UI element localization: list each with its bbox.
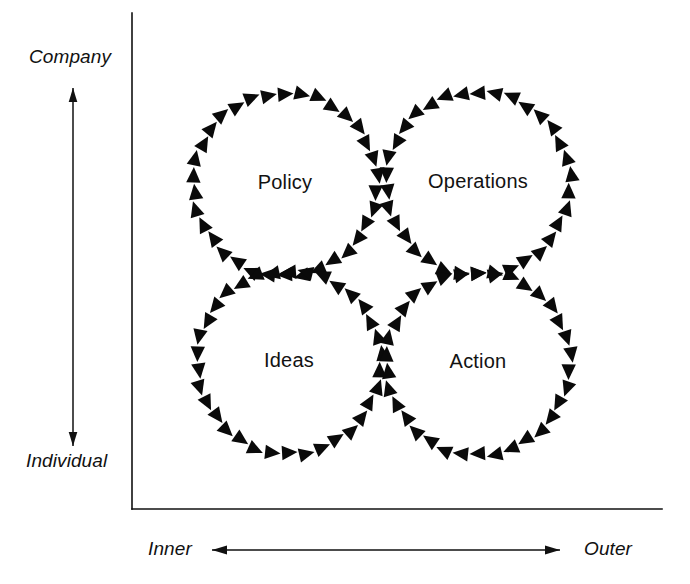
ring-arrow-triangle-icon [353, 229, 368, 246]
ring-arrow-triangle-icon [216, 247, 232, 263]
axis-label-inner: Inner [148, 538, 192, 560]
ring-arrow-triangle-icon [541, 231, 556, 248]
ring-arrow-triangle-icon [345, 288, 361, 304]
diagram-canvas: Company Individual Inner Outer PolicyOpe… [0, 0, 690, 584]
ring-arrow-triangle-icon [277, 88, 293, 102]
ring-arrow-triangle-icon [368, 185, 382, 201]
ring-arrow-triangle-icon [384, 380, 398, 397]
ring-arrow-triangle-icon [487, 446, 504, 460]
ring-arrow-triangle-icon [217, 420, 233, 436]
ring-arrow-triangle-icon [327, 434, 344, 448]
ring-arrow-triangle-icon [234, 275, 251, 289]
ring-arrow-triangle-icon [563, 379, 577, 396]
ring-arrow-triangle-icon [309, 88, 326, 101]
ring-arrow-triangle-icon [210, 296, 225, 313]
ring-arrow-triangle-icon [436, 447, 453, 460]
ring-arrow-triangle-icon [549, 216, 563, 233]
ring-arrow-triangle-icon [325, 251, 342, 265]
circle-label-operations: Operations [428, 170, 528, 193]
ring-arrow-triangle-icon [531, 246, 547, 262]
ring-arrow-triangle-icon [361, 214, 375, 231]
ring-arrow-triangle-icon [231, 429, 248, 444]
ring-arrow-triangle-icon [341, 243, 357, 259]
ring-arrow-triangle-icon [198, 393, 211, 410]
ring-arrow-triangle-icon [282, 446, 298, 460]
circle-label-action: Action [450, 350, 507, 373]
ring-arrow-triangle-icon [423, 96, 440, 110]
ring-arrow-triangle-icon [352, 410, 367, 427]
axis-label-outer: Outer [584, 538, 632, 560]
ring-arrow-triangle-icon [394, 301, 409, 318]
ring-arrow-triangle-icon [342, 425, 358, 441]
ring-arrow-triangle-icon [360, 395, 374, 412]
ring-arrow-triangle-icon [260, 90, 277, 104]
ring-arrow-triangle-icon [435, 273, 452, 286]
ring-arrow-triangle-icon [382, 149, 396, 166]
ring-arrow-triangle-icon [558, 329, 572, 346]
ring-arrow-triangle-icon [554, 393, 568, 410]
ring-arrow-triangle-icon [208, 231, 223, 248]
ring-arrow-triangle-icon [366, 314, 380, 331]
ring-arrow-triangle-icon [380, 200, 394, 217]
ring-arrow-triangle-icon [365, 150, 379, 167]
ring-arrow-triangle-icon [561, 364, 575, 380]
ring-arrow-triangle-icon [563, 346, 577, 362]
ring-arrow-triangle-icon [547, 120, 562, 137]
ring-arrow-triangle-icon [242, 94, 259, 107]
ring-arrow-triangle-icon [408, 104, 424, 120]
ring-arrow-triangle-icon [387, 315, 401, 332]
ring-arrow-triangle-icon [382, 363, 396, 379]
ring-arrow-triangle-icon [393, 133, 407, 150]
axis-label-company: Company [29, 46, 111, 68]
ring-arrow-triangle-icon [337, 106, 353, 122]
ring-arrow-triangle-icon [549, 313, 563, 330]
ring-arrow-triangle-icon [193, 328, 207, 345]
ring-arrow-triangle-icon [329, 281, 346, 296]
ring-arrow-triangle-icon [392, 396, 405, 413]
circle-label-policy: Policy [258, 171, 313, 194]
ring-arrow-triangle-icon [191, 201, 205, 218]
ring-arrow-triangle-icon [315, 271, 332, 284]
ring-arrow-triangle-icon [313, 444, 330, 457]
ring-arrow-triangle-icon [387, 214, 400, 231]
ring-arrow-triangle-icon [405, 288, 421, 304]
ring-arrow-triangle-icon [189, 184, 203, 200]
ring-arrow-triangle-icon [487, 88, 504, 102]
ring-arrow-triangle-icon [409, 426, 425, 442]
ring-arrow-triangle-icon [516, 255, 533, 269]
ring-arrow-triangle-icon [227, 102, 244, 116]
circle-label-ideas: Ideas [264, 349, 314, 372]
ring-arrow-triangle-icon [453, 447, 469, 461]
ring-arrow-triangle-icon [470, 267, 486, 281]
ring-arrow-triangle-icon [370, 200, 384, 217]
ring-arrow-triangle-icon [558, 200, 572, 217]
ring-arrow-triangle-icon [264, 445, 280, 459]
ring-arrow-triangle-icon [469, 446, 485, 460]
ring-arrow-triangle-icon [298, 448, 315, 462]
ring-arrow-triangle-icon [453, 86, 470, 100]
ring-arrow-triangle-icon [356, 134, 370, 151]
ring-arrow-triangle-icon [437, 87, 454, 100]
ring-arrow-triangle-icon [401, 410, 416, 427]
ring-arrow-triangle-icon [504, 92, 521, 105]
ring-arrow-triangle-icon [470, 86, 486, 100]
ring-arrow-triangle-icon [204, 312, 218, 329]
ring-arrow-triangle-icon [565, 166, 579, 182]
ring-arrow-triangle-icon [201, 122, 216, 139]
ring-arrow-triangle-icon [453, 269, 470, 283]
ring-arrow-triangle-icon [534, 109, 550, 125]
ring-arrow-triangle-icon [399, 117, 414, 134]
ring-arrow-triangle-icon [420, 281, 437, 295]
ring-arrow-triangle-icon [486, 264, 503, 278]
ring-arrow-triangle-icon [435, 261, 452, 274]
ring-arrow-triangle-icon [246, 440, 263, 453]
ring-arrow-triangle-icon [358, 299, 373, 316]
ring-arrow-triangle-icon [406, 241, 422, 257]
ring-arrow-triangle-icon [199, 217, 212, 234]
arrow-rings-layer [0, 0, 690, 584]
ring-arrow-triangle-icon [555, 135, 569, 152]
ring-arrow-triangle-icon [518, 102, 535, 117]
ring-arrow-triangle-icon [420, 250, 437, 265]
ring-arrow-triangle-icon [503, 439, 520, 452]
ring-arrow-triangle-icon [546, 408, 561, 425]
